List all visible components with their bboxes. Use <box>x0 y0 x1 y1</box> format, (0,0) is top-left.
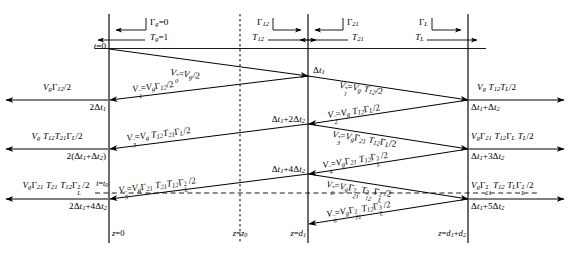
left-exit-time-2: 2(Δt1+Δt2) <box>67 152 106 162</box>
gamma-21-label: Γ21 <box>347 18 359 28</box>
gamma-L-arrow <box>432 18 461 30</box>
coefficient-arrow-group-gamma-L <box>427 18 477 40</box>
bounce-diagram-figure: Γg=0 Tg=1 Γ12 T12 Γ21 T21 ΓL TL t=0 t=t0… <box>0 0 571 259</box>
right-exit-time-1: Δt1+Δt2 <box>471 103 500 113</box>
right-exit-amplitude-3: VgΓ221T12TLΓ2L/2 <box>471 181 534 191</box>
wave-label-V0-plus: V+0=Vg/2 <box>170 68 201 82</box>
left-exit-time-3: 2Δt1+4Δt2 <box>69 202 107 212</box>
TL-label: TL <box>415 33 424 43</box>
right-exit-amplitude-1: VgT12TL/2 <box>477 83 516 93</box>
gamma-g-arrow <box>116 18 146 30</box>
T12-label: T12 <box>252 33 264 43</box>
ray-V1-plus <box>308 76 468 100</box>
ray-V0-plus <box>109 49 308 76</box>
left-exit-amplitude-2: VgT12T21ΓL/2 <box>31 132 82 142</box>
left-exit-amplitude-3: VgΓ21T21T12Γ2L/2 <box>22 181 89 191</box>
gamma-g-label: Γg=0 <box>150 18 168 28</box>
coefficient-arrow-group-gamma-g <box>98 18 146 40</box>
Tg-label: Tg=1 <box>150 33 168 43</box>
left-exit-time-1: 2Δt1 <box>90 103 106 113</box>
T21-label: T21 <box>352 33 364 43</box>
t-zero-label: t=0 <box>94 42 106 51</box>
gamma-21-arrow <box>315 18 343 30</box>
coefficient-arrow-group-gamma-12 <box>268 18 316 40</box>
gamma-L-label: ΓL <box>419 18 428 28</box>
t-t0-label: t=t0 <box>96 180 108 189</box>
z-d1-label: z=d1 <box>290 229 306 239</box>
z-z0-label: z=z0 <box>233 229 248 239</box>
junction-time-label-3: Δt1+4Δt2 <box>272 165 305 175</box>
junction-time-label-2: Δt1+2Δt2 <box>272 115 305 125</box>
gamma-12-arrow <box>273 18 301 30</box>
diagram-canvas <box>0 0 571 259</box>
gamma-12-label: Γ12 <box>257 18 269 28</box>
right-exit-amplitude-2: VgΓ21T12ΓLTL/2 <box>471 132 534 142</box>
left-exit-amplitude-1: VgΓ12/2 <box>43 83 71 93</box>
right-exit-time-3: Δt1+5Δt2 <box>471 202 504 212</box>
junction-time-label-1: Δt1 <box>313 66 325 76</box>
coefficient-arrow-group-gamma-21 <box>300 18 348 40</box>
z-zero-label: z=0 <box>112 229 125 238</box>
right-exit-time-2: Δt1+3Δt2 <box>471 152 504 162</box>
z-d1-d2-label: z=d1+d2 <box>438 229 466 239</box>
